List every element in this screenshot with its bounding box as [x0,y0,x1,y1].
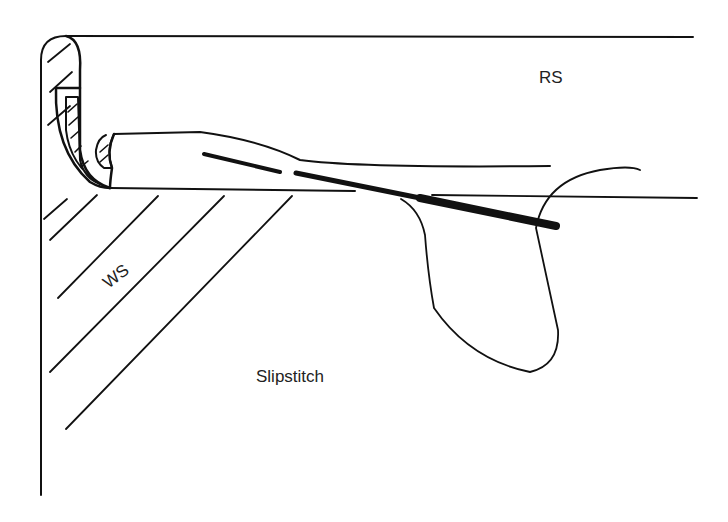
caption-label: Slipstitch [256,368,324,385]
fabric-left-edge [41,36,693,495]
slipstitch-diagram: RS WS Slipstitch [0,0,728,522]
folded-hem-edge [96,132,550,191]
diagram-drawing [0,0,728,522]
fabric-lower-edge [432,195,697,198]
tube-end-hatching [100,145,108,162]
hem-tube-front [109,134,114,188]
right-side-label: RS [539,69,563,86]
fold-roll-outline [66,36,110,188]
